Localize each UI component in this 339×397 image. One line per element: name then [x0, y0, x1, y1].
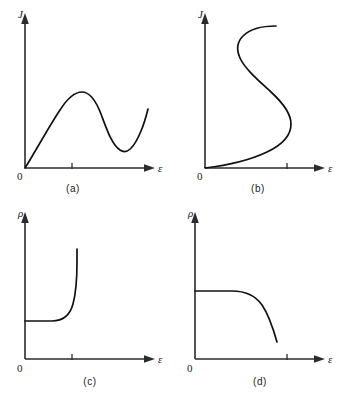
origin-label-a: 0	[17, 170, 23, 182]
curve-a	[25, 92, 148, 168]
y-axis-label-c: ρ	[17, 207, 23, 219]
x-axis-arrow-icon-c	[144, 355, 155, 363]
panel-b: J ε 0 (b)	[170, 0, 339, 198]
y-axis-label-d: ρ	[187, 207, 193, 219]
curve-c	[25, 249, 77, 321]
x-axis-label-c: ε	[158, 353, 163, 365]
curve-d	[195, 291, 277, 342]
caption-b: (b)	[251, 183, 265, 194]
y-axis-label-b: J	[198, 8, 204, 20]
x-axis-arrow-icon-a	[144, 164, 155, 172]
curve-b	[205, 26, 291, 168]
panel-d: ρ ε 0 (d)	[170, 199, 339, 397]
x-axis-label-a: ε	[158, 162, 163, 174]
caption-d: (d)	[253, 376, 267, 387]
figure-container: J ε 0 (a) J ε 0 (b)	[0, 0, 339, 397]
x-axis-label-b: ε	[328, 162, 333, 174]
x-axis-label-d: ε	[328, 353, 333, 365]
origin-label-b: 0	[197, 170, 203, 182]
origin-label-d: 0	[187, 362, 193, 374]
panel-c: ρ ε 0 (c)	[0, 199, 169, 397]
panel-a: J ε 0 (a)	[0, 0, 169, 198]
x-axis-arrow-icon-b	[314, 164, 325, 172]
caption-a: (a)	[66, 183, 80, 194]
y-axis-label-a: J	[18, 8, 24, 20]
x-axis-arrow-icon-d	[314, 355, 325, 363]
origin-label-c: 0	[17, 362, 23, 374]
caption-c: (c)	[83, 376, 96, 387]
